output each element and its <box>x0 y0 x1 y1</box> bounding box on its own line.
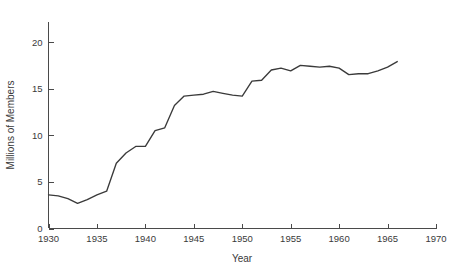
y-tick-label: 5 <box>37 176 42 187</box>
x-axis: 193019351940194519501955196019651970 <box>38 224 447 244</box>
y-axis-title: Millions of Members <box>5 81 16 170</box>
x-tick-label: 1955 <box>280 233 301 244</box>
data-series-line <box>49 62 398 204</box>
x-tick-label: 1940 <box>135 233 156 244</box>
x-tick-label: 1960 <box>329 233 350 244</box>
y-tick-label: 20 <box>32 37 43 48</box>
x-axis-title: Year <box>232 253 253 264</box>
x-tick-label: 1965 <box>377 233 398 244</box>
x-tick-label: 1930 <box>38 233 59 244</box>
x-tick-label: 1970 <box>425 233 446 244</box>
x-tick-label: 1945 <box>183 233 204 244</box>
x-tick-label: 1950 <box>232 233 253 244</box>
y-axis: 05101520 <box>32 22 54 234</box>
line-chart-plot: 05101520 1930193519401945195019551960196… <box>0 0 453 271</box>
x-tick-group: 193019351940194519501955196019651970 <box>38 224 447 244</box>
x-tick-label: 1935 <box>86 233 107 244</box>
y-tick-label: 15 <box>32 83 43 94</box>
y-tick-label: 10 <box>32 130 43 141</box>
chart-container: 05101520 1930193519401945195019551960196… <box>0 0 453 271</box>
y-tick-group: 05101520 <box>32 37 54 235</box>
